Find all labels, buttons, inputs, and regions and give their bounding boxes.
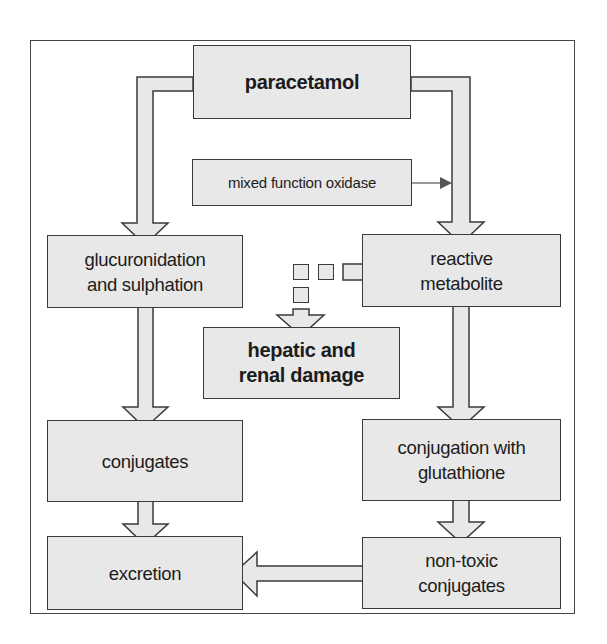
node-glucuronidation-line2: and sulphation	[87, 272, 203, 297]
node-glucuronidation-and-sulphation: glucuronidation and sulphation	[47, 235, 243, 308]
mixed-function-oxidase-arrowhead	[440, 177, 452, 189]
arrow-reactive-to-conjugation	[438, 307, 484, 428]
node-non-toxic-conjugates: non-toxic conjugates	[362, 537, 561, 609]
node-conjugation-line2: glutathione	[418, 460, 505, 485]
dash-square-3	[293, 287, 309, 303]
node-hepatic-and-renal-damage: hepatic and renal damage	[203, 327, 400, 399]
reactive-metabolite-tab	[343, 264, 362, 280]
node-paracetamol: paracetamol	[193, 45, 411, 119]
arrow-glucuronidation-to-conjugates	[123, 308, 168, 428]
node-reactive-metabolite: reactive metabolite	[362, 234, 561, 307]
dash-square-2	[318, 264, 334, 280]
arrow-paracetamol-to-glucuronidation	[122, 77, 193, 245]
node-nontoxic-line1: non-toxic	[425, 548, 497, 573]
node-conjugates: conjugates	[47, 420, 243, 502]
node-excretion: excretion	[47, 536, 243, 610]
node-glucuronidation-line1: glucuronidation	[85, 247, 206, 272]
arrow-paracetamol-to-reactive-metabolite	[411, 77, 484, 244]
node-excretion-label: excretion	[109, 561, 181, 586]
arrow-nontoxic-to-excretion	[234, 552, 362, 596]
node-paracetamol-label: paracetamol	[245, 70, 360, 95]
dash-square-1	[293, 264, 309, 280]
node-nontoxic-line2: conjugates	[418, 573, 504, 598]
node-conjugates-label: conjugates	[102, 449, 188, 474]
node-mixed-function-oxidase: mixed function oxidase	[192, 159, 412, 206]
node-damage-line1: hepatic and	[248, 338, 356, 363]
node-reactive-line2: metabolite	[420, 271, 502, 296]
node-reactive-line1: reactive	[430, 246, 492, 271]
node-damage-line2: renal damage	[239, 363, 364, 388]
node-mixed-function-oxidase-label: mixed function oxidase	[228, 170, 376, 195]
node-conjugation-with-glutathione: conjugation with glutathione	[362, 419, 561, 501]
node-conjugation-line1: conjugation with	[398, 435, 526, 460]
